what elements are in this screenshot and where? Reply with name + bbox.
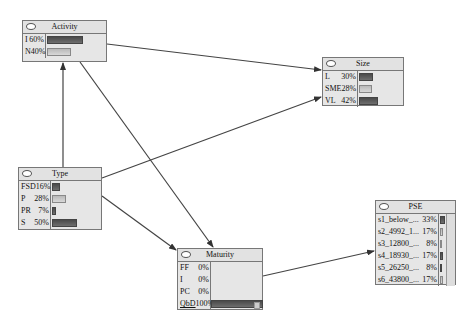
state-row[interactable]: P28% xyxy=(19,193,50,205)
probability-bar xyxy=(47,48,71,56)
probability-bar xyxy=(52,195,66,203)
state-row[interactable]: SME28% xyxy=(323,83,357,95)
probability-bar xyxy=(440,216,445,224)
node-title: PSE xyxy=(409,202,423,211)
state-row[interactable]: I0% xyxy=(178,274,210,286)
state-row[interactable]: s2_4992_1...17% xyxy=(376,226,438,238)
state-row[interactable]: S50% xyxy=(19,217,50,229)
node-toggle-icon[interactable] xyxy=(26,23,36,30)
edge-maturity-pse xyxy=(263,251,374,276)
state-row[interactable]: s3_12800_...8% xyxy=(376,238,438,250)
node-header[interactable]: Activity xyxy=(23,21,106,34)
state-row[interactable]: s5_26250_...8% xyxy=(376,262,438,274)
node-header[interactable]: Size xyxy=(323,58,403,71)
node-toggle-icon[interactable] xyxy=(22,170,32,177)
node-title: Activity xyxy=(51,22,77,31)
state-row[interactable]: FSD16% xyxy=(19,181,50,193)
state-row[interactable]: N40% xyxy=(23,46,45,58)
evidence-icon[interactable] xyxy=(254,302,260,309)
node-maturity[interactable]: Maturity FF0% I0% PC0% QbD100% xyxy=(177,248,263,310)
probability-bar xyxy=(440,252,443,260)
node-title: Maturity xyxy=(206,250,234,259)
node-header[interactable]: Maturity xyxy=(178,249,262,262)
edge-type-maturity xyxy=(102,196,176,250)
edge-activity-size xyxy=(107,44,321,70)
state-row[interactable]: s6_43800_...17% xyxy=(376,274,438,286)
probability-bar xyxy=(47,36,83,44)
probability-bar xyxy=(440,240,442,248)
state-row[interactable]: FF0% xyxy=(178,262,210,274)
state-row[interactable]: PC0% xyxy=(178,286,210,298)
node-size[interactable]: Size L30% SME28% VL42% xyxy=(322,57,404,106)
node-activity[interactable]: Activity I60% N40% xyxy=(22,20,107,62)
probability-bar xyxy=(359,73,373,81)
node-header[interactable]: PSE xyxy=(376,201,455,214)
state-row[interactable]: s4_18930_...17% xyxy=(376,250,438,262)
state-row[interactable]: I60% xyxy=(23,34,45,46)
node-title: Type xyxy=(52,169,68,178)
node-header[interactable]: Type xyxy=(19,168,101,181)
probability-bar xyxy=(52,183,60,191)
state-row[interactable]: VL42% xyxy=(323,95,357,107)
scrollbar[interactable] xyxy=(446,214,455,286)
probability-bar xyxy=(440,264,442,272)
node-toggle-icon[interactable] xyxy=(326,60,336,67)
probability-bar xyxy=(52,207,56,215)
state-row[interactable]: s1_below_...33% xyxy=(376,214,438,226)
probability-bar xyxy=(440,276,443,284)
state-row[interactable]: PR7% xyxy=(19,205,50,217)
node-pse[interactable]: PSE s1_below_...33% s2_4992_1...17% s3_1… xyxy=(375,200,456,285)
node-title: Size xyxy=(356,59,370,68)
node-toggle-icon[interactable] xyxy=(379,203,389,210)
node-type[interactable]: Type FSD16% P28% PR7% S50% xyxy=(18,167,102,230)
probability-bar xyxy=(52,219,77,227)
state-row[interactable]: L30% xyxy=(323,71,357,83)
probability-bar xyxy=(359,85,372,93)
state-row[interactable]: QbD100% xyxy=(178,298,210,310)
probability-bar xyxy=(440,228,443,236)
node-toggle-icon[interactable] xyxy=(181,251,191,258)
probability-bar xyxy=(359,97,378,105)
